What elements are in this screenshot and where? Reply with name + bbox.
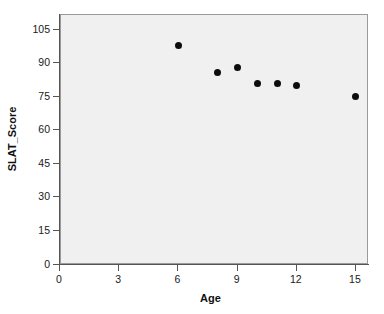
y-tick-label: 0 [44,258,50,270]
x-tick-label: 12 [290,273,302,285]
x-tick-mark [59,265,60,271]
x-tick-label: 15 [349,273,361,285]
x-axis-line [59,264,369,265]
data-point [214,69,221,76]
data-point [293,82,300,89]
y-tick-mark [53,96,59,97]
data-point [175,42,182,49]
y-tick-mark [53,62,59,63]
y-tick-mark [53,163,59,164]
data-point [352,93,359,100]
data-point [274,80,281,87]
y-tick-label: 90 [38,56,50,68]
y-tick-label: 105 [32,23,50,35]
x-tick-mark [355,265,356,271]
y-tick-label: 45 [38,157,50,169]
y-tick-label: 75 [38,90,50,102]
x-axis-title-text: Age [200,292,221,304]
y-tick-mark [53,29,59,30]
x-tick-mark [177,265,178,271]
y-axis-title: SLAT_Score [2,0,22,278]
data-point [234,64,241,71]
plot-area [60,14,368,264]
y-tick-mark [53,129,59,130]
y-tick-label: 15 [38,224,50,236]
data-points-layer [61,15,367,263]
y-axis-line [59,14,60,265]
y-tick-label: 60 [38,123,50,135]
x-tick-mark [237,265,238,271]
chart-figure: 0153045607590105 03691215 SLAT_Score Age [0,0,384,314]
x-tick-label: 3 [115,273,121,285]
y-axis-title-text: SLAT_Score [6,107,18,172]
x-axis-title: Age [0,292,384,304]
x-tick-label: 6 [174,273,180,285]
data-point [254,80,261,87]
x-tick-mark [296,265,297,271]
x-tick-label: 9 [234,273,240,285]
x-tick-mark [118,265,119,271]
y-tick-label: 30 [38,190,50,202]
y-tick-mark [53,230,59,231]
y-tick-mark [53,196,59,197]
x-tick-label: 0 [56,273,62,285]
